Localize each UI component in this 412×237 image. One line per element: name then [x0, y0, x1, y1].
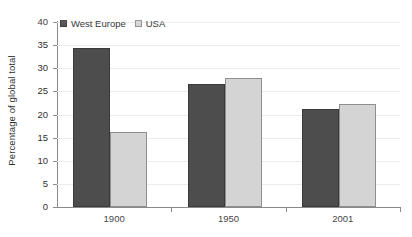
x-axis-label-2001: 2001: [303, 213, 383, 224]
y-tick-label-30: 30: [18, 62, 48, 73]
x-axis-label-1950: 1950: [189, 213, 269, 224]
y-tick-label-20: 20: [18, 109, 48, 120]
bar-usa-2001: [339, 104, 376, 207]
y-tick-label-5: 5: [18, 178, 48, 189]
x-tick-separator-3: [400, 207, 401, 212]
x-tick-separator-2: [286, 207, 287, 212]
bar-west-europe-1950: [188, 84, 225, 207]
y-tick-label-35: 35: [18, 39, 48, 50]
gridline-0: [57, 207, 400, 208]
bar-usa-1900: [110, 132, 147, 207]
legend-item-label: West Europe: [71, 18, 126, 29]
x-axis-label-1900: 1900: [74, 213, 154, 224]
y-tick-label-25: 25: [18, 85, 48, 96]
y-tick-label-10: 10: [18, 155, 48, 166]
legend-item-west-europe[interactable]: West Europe: [60, 18, 126, 29]
chart-legend: West EuropeUSA: [60, 18, 165, 29]
legend-item-usa[interactable]: USA: [135, 18, 166, 29]
y-tick-label-0: 0: [18, 201, 48, 212]
plot-area: [57, 22, 400, 207]
bar-chart: Percentage of global total 0510152025303…: [0, 0, 412, 237]
y-tick-label-15: 15: [18, 132, 48, 143]
bar-west-europe-2001: [302, 109, 339, 208]
x-tick-separator-1: [171, 207, 172, 212]
gridline-35: [57, 45, 400, 46]
bar-usa-1950: [225, 78, 262, 208]
y-axis-title: Percentage of global total: [6, 21, 17, 201]
y-tick-label-40: 40: [18, 16, 48, 27]
dark-square-swatch: [60, 20, 67, 27]
bar-west-europe-1900: [73, 48, 110, 207]
light-square-swatch: [135, 20, 142, 27]
legend-item-label: USA: [146, 18, 166, 29]
